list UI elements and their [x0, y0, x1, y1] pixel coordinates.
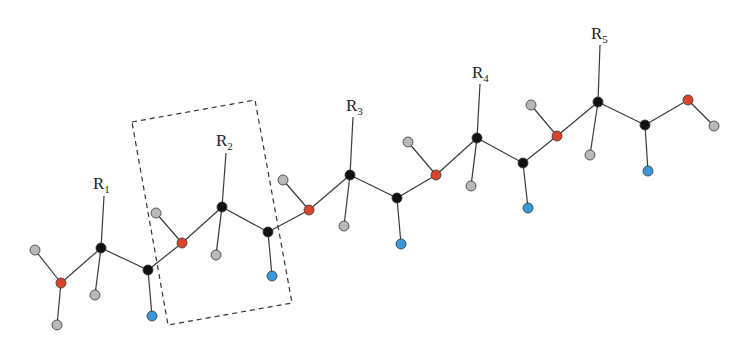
nitrogen-atom: [177, 238, 187, 248]
nitrogen-atom: [431, 170, 441, 180]
hydrogen-atom: [52, 320, 62, 330]
bond: [283, 180, 309, 210]
hydrogen-atom: [585, 150, 595, 160]
bond: [408, 142, 436, 175]
bond: [436, 138, 477, 175]
oxygen-atom: [396, 239, 406, 249]
bond: [101, 248, 148, 270]
bond: [531, 105, 557, 136]
hydrogen-atom: [90, 290, 100, 300]
nitrogen-atom: [304, 205, 314, 215]
residue-label-r2: R2: [216, 131, 233, 152]
bond: [645, 100, 688, 125]
hydrogen-atom: [526, 100, 536, 110]
carbon-atom: [143, 265, 153, 275]
hydrogen-atom: [403, 137, 413, 147]
bond: [35, 250, 61, 283]
polypeptide-diagram: R1R2R3R4R5: [0, 0, 745, 350]
hydrogen-atom: [278, 175, 288, 185]
carbon-atom: [345, 170, 355, 180]
oxygen-atom: [523, 203, 533, 213]
nitrogen-atom: [683, 95, 693, 105]
carbon-atom: [392, 193, 402, 203]
carbon-atom: [593, 97, 603, 107]
side-chain-bond-r3: [350, 117, 353, 175]
carbon-atom: [263, 227, 273, 237]
carbon-atom: [640, 120, 650, 130]
hydrogen-atom: [709, 121, 719, 131]
side-chain-bond-r5: [598, 45, 600, 102]
residue-label-r5: R5: [591, 24, 608, 45]
hydrogen-atom: [466, 181, 476, 191]
bond: [645, 125, 648, 171]
bond: [598, 102, 645, 125]
bond: [688, 100, 714, 126]
carbon-atom: [472, 133, 482, 143]
bond: [182, 207, 222, 243]
bond: [471, 138, 477, 186]
bond: [523, 163, 528, 208]
hydrogen-atom: [211, 250, 221, 260]
carbon-atom: [96, 243, 106, 253]
bond: [95, 248, 101, 295]
oxygen-atom: [147, 311, 157, 321]
residue-label-r3: R3: [346, 96, 363, 117]
bond: [350, 175, 397, 198]
bond: [557, 102, 598, 136]
carbon-atom: [217, 202, 227, 212]
residue-label-r1: R1: [93, 174, 110, 195]
bond: [397, 175, 436, 198]
bond: [156, 213, 182, 243]
oxygen-atom: [267, 271, 277, 281]
atoms: [30, 95, 719, 330]
hydrogen-atom: [339, 221, 349, 231]
oxygen-atom: [643, 166, 653, 176]
bond: [268, 232, 272, 276]
hydrogen-atom: [30, 245, 40, 255]
bond: [397, 198, 401, 244]
bond: [477, 138, 523, 163]
bond: [523, 136, 557, 163]
bond: [148, 270, 152, 316]
side-chain-bond-r1: [101, 196, 104, 248]
bonds: [35, 100, 714, 325]
hydrogen-atom: [151, 208, 161, 218]
bond: [344, 175, 350, 226]
bond: [61, 248, 101, 283]
side-chain-lines: [101, 45, 600, 248]
nitrogen-atom: [56, 278, 66, 288]
bond: [590, 102, 598, 155]
side-chain-bond-r2: [222, 153, 226, 207]
bond: [148, 243, 182, 270]
bond: [222, 207, 268, 232]
residue-label-r4: R4: [472, 63, 489, 84]
bond: [216, 207, 222, 255]
bond: [309, 175, 350, 210]
carbon-atom: [518, 158, 528, 168]
nitrogen-atom: [552, 131, 562, 141]
bond: [268, 210, 309, 232]
bond: [57, 283, 61, 325]
side-chain-bond-r4: [477, 84, 480, 138]
